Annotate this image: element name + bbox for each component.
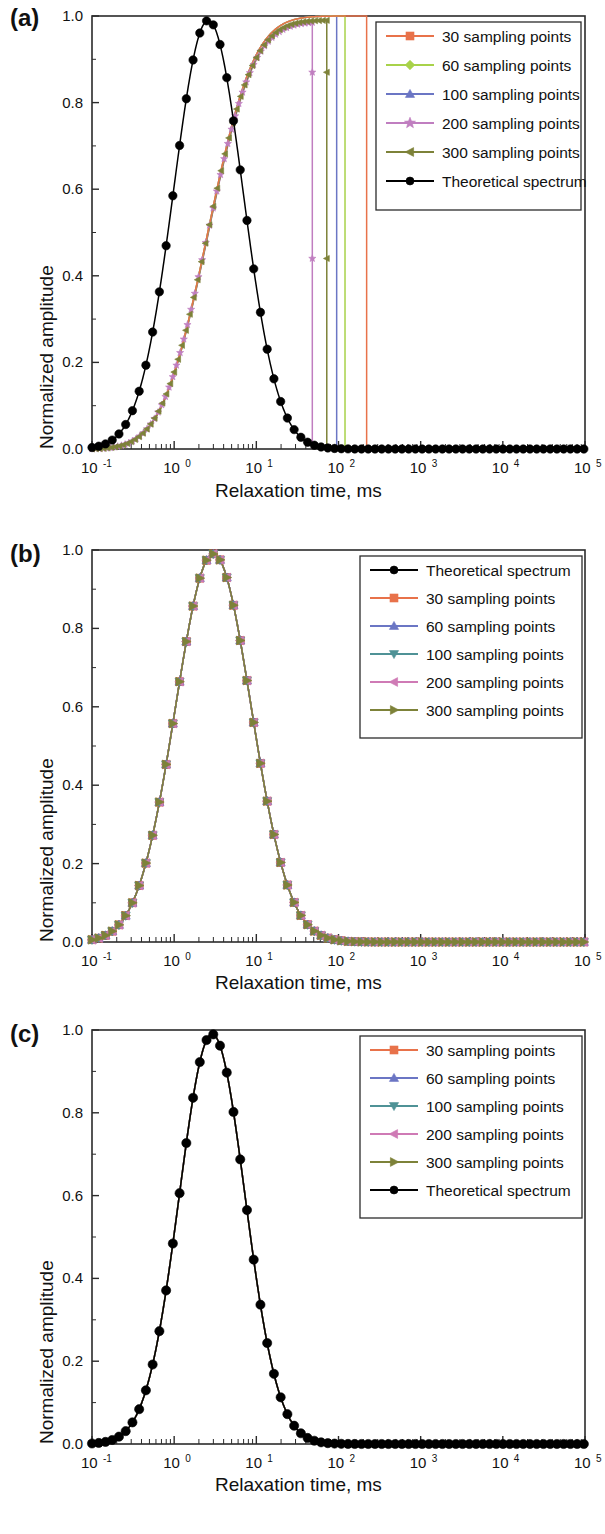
panel-c-plot: 0.00.20.40.60.81.010-1100101102103104105… (0, 1002, 605, 1534)
chart-panel-c: (c) Normalized amplitude Relaxation time… (0, 1002, 605, 1534)
legend: Theoretical spectrum30 sampling points60… (360, 556, 582, 738)
x-tick-label: 100 (163, 951, 191, 969)
x-tick-label: 103 (410, 1453, 438, 1471)
legend-label: 200 sampling points (426, 1126, 564, 1143)
y-tick-label: 1.0 (62, 1021, 83, 1038)
y-tick-label: 0.6 (62, 698, 83, 715)
svg-text:0: 0 (185, 1453, 191, 1464)
y-tick-label: 0.8 (62, 94, 83, 111)
x-tick-label: 104 (492, 458, 520, 476)
x-tick-label: 10-1 (81, 1453, 112, 1471)
series-curve (92, 23, 312, 450)
series-curve (92, 20, 327, 449)
y-tick-label: 1.0 (62, 7, 83, 24)
svg-text:10: 10 (81, 459, 98, 476)
svg-text:5: 5 (596, 458, 602, 469)
y-tick-label: 0.6 (62, 180, 83, 197)
x-tick-label: 102 (328, 951, 356, 969)
y-tick-label: 0.2 (62, 1352, 83, 1369)
svg-text:-1: -1 (103, 951, 112, 962)
chart-panel-a: (a) Normalized amplitude Relaxation time… (0, 0, 605, 512)
svg-text:3: 3 (432, 951, 438, 962)
svg-text:10: 10 (245, 952, 262, 969)
svg-text:10: 10 (574, 1454, 591, 1471)
svg-text:10: 10 (245, 459, 262, 476)
svg-text:10: 10 (574, 952, 591, 969)
svg-text:2: 2 (350, 951, 356, 962)
y-tick-label: 0.0 (62, 1435, 83, 1452)
svg-text:0: 0 (185, 951, 191, 962)
svg-text:10: 10 (163, 459, 180, 476)
series-curve (92, 16, 345, 449)
y-tick-label: 0.6 (62, 1187, 83, 1204)
legend-label: 200 sampling points (442, 115, 580, 132)
chart-panel-b: (b) Normalized amplitude Relaxation time… (0, 512, 605, 1002)
legend-label: Theoretical spectrum (442, 173, 587, 190)
legend-label: 200 sampling points (426, 674, 564, 691)
y-tick-label: 0.4 (62, 267, 83, 284)
svg-text:-1: -1 (103, 458, 112, 469)
legend-label: 30 sampling points (426, 590, 555, 607)
x-tick-label: 10-1 (81, 458, 112, 476)
y-tick-label: 0.4 (62, 776, 83, 793)
svg-text:10: 10 (410, 952, 427, 969)
svg-text:1: 1 (267, 458, 273, 469)
svg-text:-1: -1 (103, 1453, 112, 1464)
x-tick-label: 101 (245, 458, 273, 476)
svg-text:10: 10 (81, 1454, 98, 1471)
y-tick-label: 0.0 (62, 933, 83, 950)
svg-text:10: 10 (328, 1454, 345, 1471)
svg-text:10: 10 (410, 1454, 427, 1471)
svg-text:10: 10 (492, 459, 509, 476)
x-tick-label: 101 (245, 1453, 273, 1471)
svg-text:10: 10 (574, 459, 591, 476)
series-markers (89, 17, 330, 452)
svg-text:10: 10 (492, 952, 509, 969)
svg-text:4: 4 (514, 1453, 520, 1464)
svg-text:5: 5 (596, 1453, 602, 1464)
svg-text:10: 10 (163, 1454, 180, 1471)
legend-label: 300 sampling points (426, 1154, 564, 1171)
legend-label: 100 sampling points (426, 1098, 564, 1115)
x-tick-label: 100 (163, 1453, 191, 1471)
panel-b-plot: 0.00.20.40.60.81.010-1100101102103104105… (0, 512, 605, 1002)
legend-label: Theoretical spectrum (426, 1182, 571, 1199)
legend: 30 sampling points60 sampling points100 … (360, 1036, 582, 1218)
legend-label: 60 sampling points (426, 1070, 555, 1087)
svg-text:10: 10 (245, 1454, 262, 1471)
legend-label: 60 sampling points (426, 618, 555, 635)
svg-text:10: 10 (163, 952, 180, 969)
x-tick-label: 104 (492, 1453, 520, 1471)
x-tick-label: 103 (410, 458, 438, 476)
svg-text:10: 10 (328, 459, 345, 476)
svg-text:10: 10 (410, 459, 427, 476)
y-tick-label: 0.0 (62, 440, 83, 457)
svg-text:1: 1 (267, 951, 273, 962)
y-tick-label: 0.4 (62, 1269, 83, 1286)
y-tick-label: 0.8 (62, 1104, 83, 1121)
x-tick-label: 105 (574, 1453, 602, 1471)
y-tick-label: 1.0 (62, 541, 83, 558)
x-tick-label: 103 (410, 951, 438, 969)
x-tick-label: 100 (163, 458, 191, 476)
svg-text:10: 10 (81, 952, 98, 969)
series-markers (88, 19, 315, 452)
y-tick-label: 0.2 (62, 855, 83, 872)
svg-text:3: 3 (432, 1453, 438, 1464)
svg-text:0: 0 (185, 458, 191, 469)
x-tick-label: 105 (574, 458, 602, 476)
x-tick-label: 105 (574, 951, 602, 969)
x-tick-label: 101 (245, 951, 273, 969)
x-tick-label: 102 (328, 458, 356, 476)
legend-label: 30 sampling points (426, 1042, 555, 1059)
panel-a-plot: 0.00.20.40.60.81.010-1100101102103104105… (0, 0, 605, 512)
svg-text:10: 10 (328, 952, 345, 969)
y-tick-label: 0.8 (62, 619, 83, 636)
svg-text:2: 2 (350, 458, 356, 469)
x-tick-label: 104 (492, 951, 520, 969)
legend-label: 300 sampling points (442, 144, 580, 161)
svg-text:4: 4 (514, 951, 520, 962)
legend-label: 30 sampling points (442, 28, 571, 45)
svg-text:1: 1 (267, 1453, 273, 1464)
legend-label: 300 sampling points (426, 702, 564, 719)
